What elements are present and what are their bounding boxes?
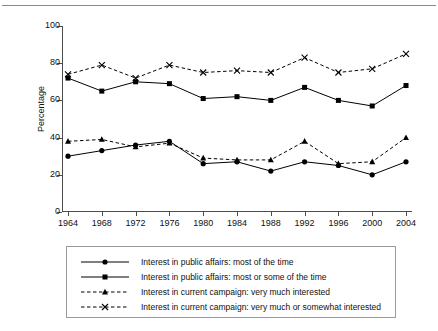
- data-point: [268, 98, 273, 103]
- x-tick-label: 2004: [386, 218, 426, 228]
- data-point: [268, 70, 274, 76]
- data-point: [302, 85, 307, 90]
- legend-label: Interest in current campaign: very much …: [141, 287, 330, 297]
- data-point: [302, 159, 307, 164]
- legend-item: Interest in current campaign: very much …: [77, 300, 381, 314]
- data-point: [201, 96, 206, 101]
- data-point: [403, 134, 409, 140]
- legend-label: Interest in current campaign: very much …: [141, 302, 381, 312]
- legend-item: Interest in public affairs: most of the …: [77, 255, 293, 269]
- data-point: [302, 138, 308, 144]
- legend-marker-triangle-icon: [77, 285, 133, 299]
- data-point: [335, 70, 341, 76]
- data-point: [336, 98, 341, 103]
- plot-area: 020406080100 196419681972197619801984198…: [62, 26, 412, 212]
- data-point: [403, 51, 409, 57]
- series-4: [65, 51, 409, 81]
- legend-label: Interest in public affairs: most or some…: [141, 272, 327, 282]
- y-tick-label: 100: [20, 20, 60, 30]
- series-3: [65, 134, 409, 166]
- data-point: [99, 62, 105, 68]
- data-point: [99, 136, 105, 142]
- series-layer: [62, 26, 412, 212]
- data-point: [99, 89, 104, 94]
- data-point: [370, 172, 375, 177]
- data-point: [302, 55, 308, 61]
- data-point: [404, 83, 409, 88]
- data-point: [369, 159, 375, 165]
- data-point: [369, 66, 375, 72]
- caption-divider-rule: [2, 5, 436, 6]
- legend-label: Interest in public affairs: most of the …: [141, 257, 293, 267]
- legend-marker-circle-icon: [77, 255, 133, 269]
- data-point: [268, 168, 273, 173]
- y-tick-label: 20: [20, 169, 60, 179]
- legend-item: Interest in current campaign: very much …: [77, 285, 330, 299]
- data-point: [99, 148, 104, 153]
- figure: 020406080100 196419681972197619801984198…: [0, 0, 438, 331]
- y-tick-label: 80: [20, 57, 60, 67]
- series-line: [68, 54, 406, 78]
- legend-marker-cross-icon: [77, 300, 133, 314]
- data-point: [65, 154, 70, 159]
- data-point: [370, 103, 375, 108]
- y-tick-label: 40: [20, 132, 60, 142]
- series-line: [68, 78, 406, 106]
- data-point: [403, 159, 408, 164]
- series-2: [66, 76, 409, 109]
- data-point: [235, 94, 240, 99]
- y-axis-title: Percentage: [36, 86, 46, 132]
- legend-item: Interest in public affairs: most or some…: [77, 270, 327, 284]
- legend-marker-square-icon: [77, 270, 133, 284]
- data-point: [234, 68, 240, 74]
- chart-legend: Interest in public affairs: most of the …: [66, 246, 396, 318]
- data-point: [167, 81, 172, 86]
- data-point: [201, 161, 206, 166]
- data-point: [200, 155, 206, 161]
- y-tick-label: 0: [20, 206, 60, 216]
